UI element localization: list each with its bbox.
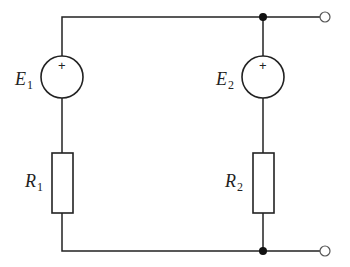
bottom-wire <box>62 213 320 251</box>
label-e1: E1 <box>15 70 33 91</box>
circuit-diagram: + + E1 E2 R1 R2 <box>0 0 350 267</box>
top-terminal <box>320 12 330 22</box>
e1-plus-sign: + <box>58 59 66 72</box>
top-wire <box>62 17 320 56</box>
resistor-r2 <box>253 153 274 213</box>
bottom-junction-dot <box>259 247 267 255</box>
circuit-schematic <box>0 0 350 267</box>
label-r1: R1 <box>25 172 43 193</box>
top-junction-dot <box>259 13 267 21</box>
bottom-terminal <box>320 246 330 256</box>
resistor-r1 <box>52 153 73 213</box>
e2-plus-sign: + <box>259 59 267 72</box>
label-e2: E2 <box>216 70 234 91</box>
label-r2: R2 <box>225 172 243 193</box>
